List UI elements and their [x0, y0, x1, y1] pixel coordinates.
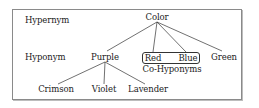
co-hyponyms-label: Co-Hyponyms — [143, 64, 202, 74]
node-green: Green — [211, 52, 237, 62]
node-blue: Blue — [178, 53, 197, 63]
edge-color-green — [157, 22, 222, 51]
node-lavender: Lavender — [128, 84, 168, 94]
edge-purple-crimson — [58, 62, 105, 84]
edge-color-red — [153, 22, 157, 52]
node-crimson: Crimson — [38, 84, 74, 94]
row-label-hyponym: Hyponym — [25, 52, 65, 62]
node-purple: Purple — [91, 52, 119, 62]
node-red: Red — [145, 53, 162, 63]
edge-purple-lavender — [105, 62, 145, 84]
row-label-hypernym: Hypernym — [25, 15, 69, 25]
node-violet: Violet — [92, 84, 116, 94]
edge-color-blue — [157, 22, 186, 52]
edge-purple-violet — [104, 62, 105, 84]
edge-color-purple — [107, 22, 157, 51]
node-color: Color — [145, 12, 168, 22]
